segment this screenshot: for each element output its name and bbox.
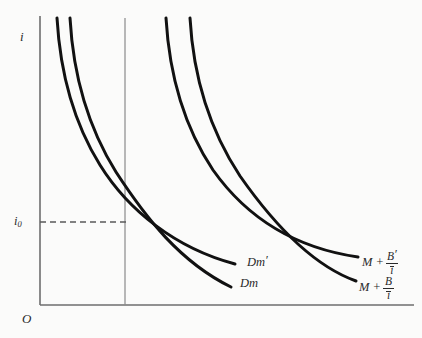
y-tick-i0: i0	[14, 215, 22, 229]
m-plus-lead-prime: M +	[362, 256, 384, 269]
numerator-base: B	[385, 275, 392, 287]
numerator-base: B	[387, 250, 394, 262]
fraction-numerator: B	[384, 273, 393, 289]
m-plus-lead: M +	[359, 281, 381, 294]
curve-label-dm-base: Dm	[240, 276, 258, 290]
prime-glyph: ′	[265, 253, 268, 267]
curve-label-m-plus-b: M + B i	[359, 273, 394, 302]
money-demand-diagram: i O i0 Dm′ Dm M + B′ i M + B i	[0, 0, 422, 338]
y-axis-label: i	[20, 30, 24, 43]
y-tick-subscript: 0	[17, 219, 21, 229]
numerator-prime: ′	[394, 247, 397, 261]
curve-label-dm: Dm	[240, 277, 258, 290]
curve-label-dm-prime-base: Dm	[247, 255, 265, 269]
curve-label-dm-prime: Dm′	[247, 254, 268, 269]
fraction-numerator: B′	[386, 248, 398, 264]
curve-dm-prime	[57, 18, 235, 264]
fraction-b-over-i-bar: B i	[383, 273, 394, 302]
curve-m-plus-b	[190, 18, 356, 281]
origin-label: O	[22, 312, 31, 325]
fraction-denominator: i	[386, 289, 391, 302]
i-bar-glyph: i	[387, 290, 390, 302]
